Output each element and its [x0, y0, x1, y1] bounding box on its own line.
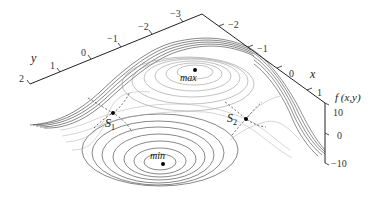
x-tick-label: 0	[289, 69, 294, 79]
y-axis-name: y	[31, 52, 36, 64]
f-tick-label: 10	[333, 108, 343, 118]
y-tick-label: −3	[170, 9, 181, 19]
contours-outer	[60, 92, 300, 158]
y-tick-label: 2	[19, 74, 24, 84]
axis-ticks	[27, 18, 329, 165]
y-tick-label: 1	[50, 61, 55, 71]
x-tick-label: −2	[228, 20, 239, 30]
surface-plot	[0, 0, 382, 197]
min-label: min	[150, 151, 165, 161]
f-tick-label: −10	[331, 159, 347, 169]
saddle-1-subscript: 1	[111, 123, 115, 132]
y-tick-label: 0	[81, 48, 86, 58]
f-axis-name: f (x,y)	[335, 92, 361, 103]
f-tick-label: 0	[337, 131, 342, 141]
saddle-1-label: S1	[105, 117, 115, 132]
x-tick-label: −1	[257, 44, 268, 54]
saddle-2-label: S2	[227, 112, 237, 127]
saddle-point-1	[111, 111, 115, 115]
saddle-point-2	[244, 117, 248, 121]
min-point	[161, 162, 165, 166]
x-tick-label: 1	[317, 88, 322, 98]
x-axis-name: x	[310, 68, 315, 80]
saddle-2-subscript: 2	[233, 118, 237, 127]
max-label: max	[180, 73, 197, 83]
contours-max	[122, 57, 254, 111]
x-axis-line	[202, 14, 325, 103]
surface-edge-right	[250, 48, 325, 156]
y-axis-line	[30, 14, 202, 84]
y-tick-label: −2	[138, 22, 149, 32]
y-tick-label: −1	[107, 34, 118, 44]
